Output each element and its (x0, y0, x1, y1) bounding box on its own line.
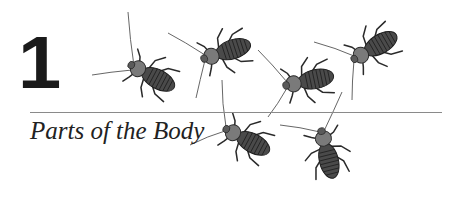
cockroach-6 (280, 92, 355, 184)
divider-rule (30, 112, 442, 113)
cockroach-2 (168, 22, 257, 98)
chapter-opener-page: 1 Parts of the Body (0, 0, 461, 197)
cockroach-3 (258, 50, 338, 117)
chapter-title: Parts of the Body (30, 117, 204, 145)
cockroach-1 (92, 12, 185, 108)
cockroach-4 (314, 15, 408, 100)
cockroach-illustration (0, 0, 461, 197)
chapter-number: 1 (18, 26, 61, 100)
